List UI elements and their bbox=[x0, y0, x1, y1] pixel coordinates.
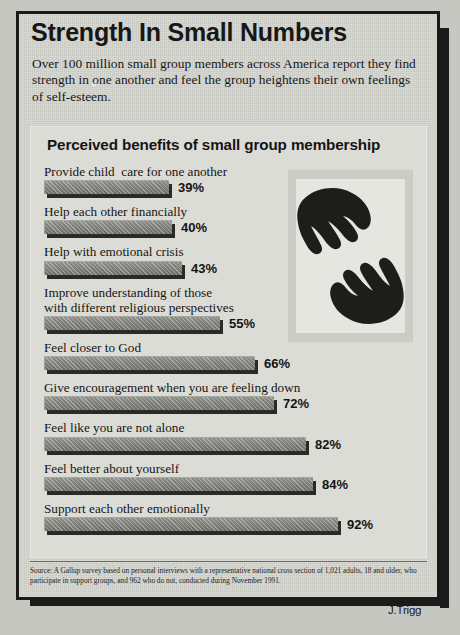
hands-illustration bbox=[288, 170, 413, 342]
bar-label: Feel like you are not alone bbox=[44, 420, 427, 435]
bar-track: 66% bbox=[44, 356, 427, 374]
bar-row: Feel like you are not alone82% bbox=[30, 420, 427, 454]
bar-track: 92% bbox=[44, 517, 427, 535]
intro-paragraph: Over 100 million small group members acr… bbox=[32, 56, 424, 105]
source-note: Source: A Gallup survey based on persona… bbox=[30, 566, 430, 585]
bar-fill bbox=[44, 180, 169, 194]
bar-value: 82% bbox=[315, 437, 341, 453]
bar-value: 43% bbox=[191, 261, 217, 277]
bar-value: 39% bbox=[178, 180, 204, 196]
bar-row: Support each other emotionally92% bbox=[30, 501, 427, 535]
bar-track: 72% bbox=[44, 396, 427, 414]
bar-fill bbox=[44, 517, 338, 531]
bar-fill bbox=[44, 316, 220, 330]
bar-value: 92% bbox=[347, 517, 373, 533]
bar-label: Give encouragement when you are feeling … bbox=[44, 380, 427, 395]
bar-value: 40% bbox=[181, 220, 207, 236]
bar-row: Feel better about yourself84% bbox=[30, 461, 427, 495]
bar-row: Feel closer to God66% bbox=[30, 340, 427, 374]
bar-track: 84% bbox=[44, 477, 427, 495]
bar-track: 82% bbox=[44, 437, 427, 455]
two-hands-reaching-icon bbox=[296, 179, 405, 333]
chart-panel: Perceived benefits of small group member… bbox=[30, 126, 427, 558]
bar-fill bbox=[44, 437, 306, 451]
bar-fill bbox=[44, 220, 172, 234]
bar-fill bbox=[44, 396, 274, 410]
page-title: Strength In Small Numbers bbox=[31, 19, 411, 46]
artist-credit: J.Trigg bbox=[388, 604, 421, 616]
bar-value: 72% bbox=[283, 396, 309, 412]
bar-fill bbox=[44, 477, 313, 491]
bar-value: 55% bbox=[229, 316, 255, 332]
bar-value: 84% bbox=[322, 477, 348, 493]
source-divider bbox=[30, 561, 427, 562]
bar-label: Feel closer to God bbox=[44, 340, 427, 355]
bar-label: Support each other emotionally bbox=[44, 501, 427, 516]
chart-title: Perceived benefits of small group member… bbox=[47, 136, 380, 153]
infographic-page: Strength In Small Numbers Over 100 milli… bbox=[0, 0, 460, 635]
bar-fill bbox=[44, 356, 255, 370]
bar-label: Feel better about yourself bbox=[44, 461, 427, 476]
bar-row: Give encouragement when you are feeling … bbox=[30, 380, 427, 414]
bar-fill bbox=[44, 261, 182, 275]
page-drop-shadow-right bbox=[440, 28, 449, 608]
bar-value: 66% bbox=[264, 356, 290, 372]
